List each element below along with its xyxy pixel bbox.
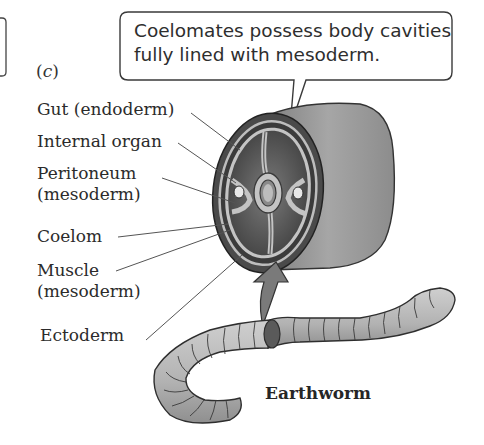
body-cross-section (205, 103, 394, 278)
callout-text: Coelomates possess body cavities fully l… (134, 19, 454, 67)
label-muscle: Muscle (mesoderm) (37, 260, 141, 302)
partial-panel-border (0, 18, 6, 76)
label-ectoderm: Ectoderm (40, 325, 124, 346)
label-internal-organ: Internal organ (37, 131, 162, 152)
callout-line-1: Coelomates possess body cavities (134, 19, 454, 43)
panel-letter: (c) (36, 61, 59, 81)
earthworm-label: Earthworm (265, 383, 371, 403)
coelomate-diagram: Coelomates possess body cavities fully l… (0, 0, 484, 445)
label-peritoneum: Peritoneum (mesoderm) (37, 163, 141, 205)
panel-letter-value: c (43, 61, 53, 81)
callout-line-2: fully lined with mesoderm. (134, 43, 454, 67)
label-coelom: Coelom (37, 226, 102, 247)
label-gut: Gut (endoderm) (37, 99, 174, 120)
